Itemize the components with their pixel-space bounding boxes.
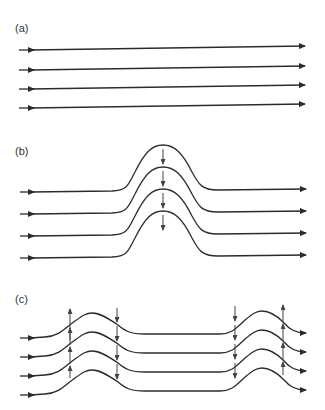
panel-a xyxy=(19,46,305,108)
flow-line xyxy=(19,46,305,50)
panel-b xyxy=(20,145,306,258)
flow-line xyxy=(19,104,305,108)
flow-line xyxy=(19,85,305,89)
flow-line xyxy=(20,311,306,338)
panel-c xyxy=(20,305,306,395)
flow-line xyxy=(19,66,305,70)
flow-diagram xyxy=(0,0,325,410)
